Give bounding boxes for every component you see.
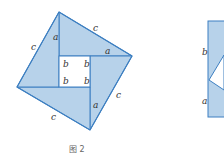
label-a-right: a [105, 46, 110, 56]
label-c-bottom: c [51, 112, 56, 122]
label-a-right-fig: a [202, 96, 207, 106]
figure-caption: 图 2 [69, 145, 85, 154]
pythagoras-figure: c c c c a a a b b b b 图 2 b a [0, 0, 224, 161]
label-c-top: c [93, 23, 98, 33]
label-a-top: a [53, 32, 58, 42]
left-square-diagram: c c c c a a a b b b b 图 2 [17, 12, 132, 154]
label-b-3: b [63, 76, 69, 86]
label-a-bottom: a [93, 100, 98, 110]
label-b-4: b [84, 76, 90, 86]
right-square-diagram: b a [202, 21, 224, 117]
label-b-right: b [202, 47, 208, 57]
label-c-right: c [116, 90, 121, 100]
label-b-2: b [84, 59, 90, 69]
label-b-1: b [63, 59, 69, 69]
label-c-left: c [31, 42, 36, 52]
